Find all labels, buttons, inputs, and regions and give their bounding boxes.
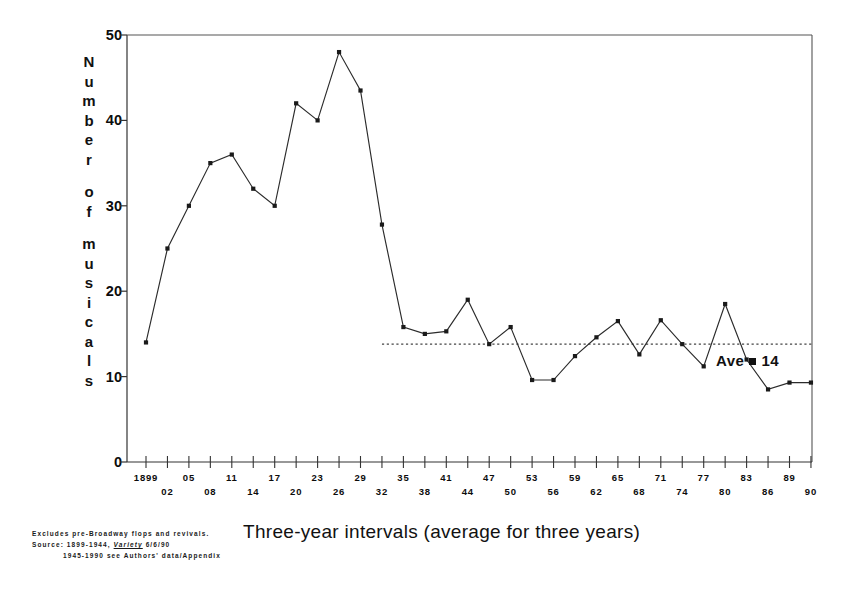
data-point-62 <box>594 335 598 339</box>
data-point-26 <box>337 50 341 54</box>
footnote-block: Excludes pre-Broadway flops and revivals… <box>32 528 221 562</box>
x-tick-label-44: 44 <box>462 486 474 497</box>
data-series-line <box>146 52 811 389</box>
data-point-77 <box>702 364 706 368</box>
data-point-23 <box>316 118 320 122</box>
data-point-17 <box>273 204 277 208</box>
footnote-source-prefix: Source: 1899-1944, <box>32 541 111 548</box>
data-point-35 <box>401 325 405 329</box>
data-point-59 <box>573 354 577 358</box>
data-point-53 <box>530 378 534 382</box>
plot-area <box>0 0 844 593</box>
x-tick-label-53: 53 <box>526 472 538 483</box>
x-tick-label-32: 32 <box>376 486 388 497</box>
data-point-41 <box>444 329 448 333</box>
average-value: 14 <box>761 352 779 369</box>
x-tick-label-74: 74 <box>676 486 688 497</box>
data-point-29 <box>358 88 362 92</box>
data-point-38 <box>423 332 427 336</box>
x-tick-label-38: 38 <box>419 486 431 497</box>
data-point-56 <box>551 378 555 382</box>
y-tick-marks <box>120 35 127 462</box>
equals-square-icon <box>749 358 756 365</box>
x-tick-label-77: 77 <box>698 472 710 483</box>
data-point-08 <box>208 161 212 165</box>
x-tick-label-35: 35 <box>397 472 409 483</box>
data-point-05 <box>187 204 191 208</box>
x-tick-label-02: 02 <box>161 486 173 497</box>
footnote-source-name: Variety <box>114 541 143 548</box>
data-point-32 <box>380 222 384 226</box>
x-tick-label-56: 56 <box>547 486 559 497</box>
data-point-86 <box>766 387 770 391</box>
data-point-1899 <box>144 340 148 344</box>
x-tick-label-80: 80 <box>719 486 731 497</box>
average-annotation: Ave14 <box>716 352 779 369</box>
x-tick-label-65: 65 <box>612 472 624 483</box>
footnote-line-3: 1945-1990 see Authors' data/Appendix <box>32 550 221 561</box>
data-point-44 <box>466 298 470 302</box>
x-tick-label-23: 23 <box>312 472 324 483</box>
data-point-11 <box>230 152 234 156</box>
x-tick-label-05: 05 <box>183 472 195 483</box>
x-tick-label-59: 59 <box>569 472 581 483</box>
data-point-02 <box>165 246 169 250</box>
x-tick-label-20: 20 <box>290 486 302 497</box>
x-tick-label-89: 89 <box>783 472 795 483</box>
x-tick-label-86: 86 <box>762 486 774 497</box>
data-point-90 <box>809 380 813 384</box>
x-tick-label-83: 83 <box>741 472 753 483</box>
footnote-line-1: Excludes pre-Broadway flops and revivals… <box>32 528 221 539</box>
x-tick-label-11: 11 <box>226 472 238 483</box>
x-tick-label-50: 50 <box>505 486 517 497</box>
data-point-47 <box>487 342 491 346</box>
x-tick-label-71: 71 <box>655 472 667 483</box>
footnote-line-2: Source: 1899-1944, Variety 6/6/90 <box>32 539 221 550</box>
x-axis-title: Three-year intervals (average for three … <box>243 521 640 543</box>
x-tick-label-47: 47 <box>483 472 495 483</box>
x-tick-label-26: 26 <box>333 486 345 497</box>
x-tick-label-41: 41 <box>440 472 452 483</box>
data-point-80 <box>723 302 727 306</box>
data-point-71 <box>659 318 663 322</box>
x-tick-label-62: 62 <box>590 486 602 497</box>
x-tick-label-90: 90 <box>805 486 817 497</box>
footnote-source-date: 6/6/90 <box>146 541 171 548</box>
x-tick-label-1899: 1899 <box>134 472 158 483</box>
data-point-68 <box>637 352 641 356</box>
x-tick-label-68: 68 <box>633 486 645 497</box>
x-tick-label-29: 29 <box>354 472 366 483</box>
x-tick-label-08: 08 <box>204 486 216 497</box>
data-point-14 <box>251 187 255 191</box>
data-point-89 <box>787 380 791 384</box>
data-point-50 <box>509 325 513 329</box>
chart-figure: Numberofmusicals 50 40 30 20 10 0 189902… <box>0 0 844 593</box>
data-point-20 <box>294 101 298 105</box>
data-point-74 <box>680 342 684 346</box>
data-point-65 <box>616 319 620 323</box>
average-label: Ave <box>716 352 744 369</box>
x-tick-label-17: 17 <box>269 472 281 483</box>
x-tick-label-14: 14 <box>247 486 259 497</box>
